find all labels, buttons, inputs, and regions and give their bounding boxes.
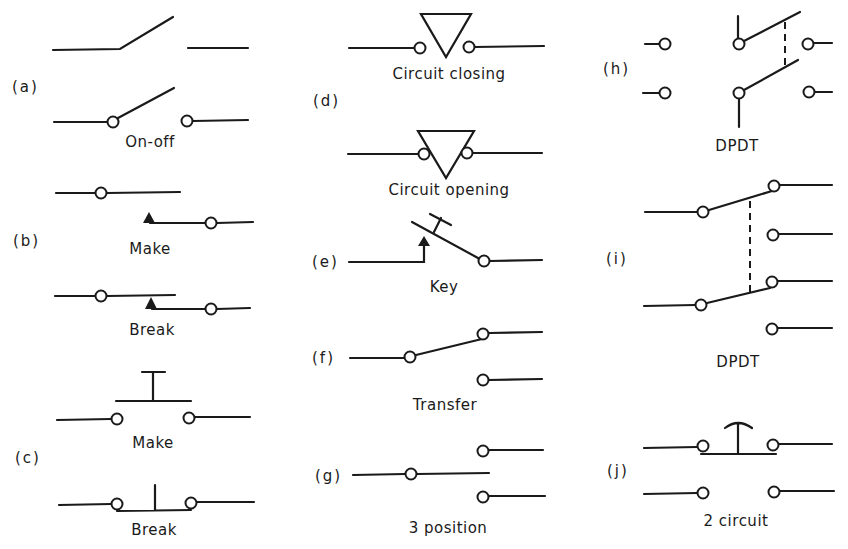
caption-circuit-closing: Circuit closing — [392, 65, 505, 83]
symbol-f-transfer — [350, 329, 542, 386]
symbol-c-break — [59, 485, 254, 511]
caption-circuit-opening: Circuit opening — [388, 181, 509, 199]
tag-i: (i) — [606, 250, 628, 268]
symbol-b-break — [55, 291, 250, 315]
tag-h: (h) — [603, 60, 630, 78]
caption-h-dpdt: DPDT — [715, 137, 758, 155]
symbol-g-3-position — [353, 446, 545, 503]
caption-on-off: On-off — [125, 133, 175, 151]
tag-a: (a) — [12, 78, 39, 96]
caption-key: Key — [430, 278, 459, 296]
symbol-a-plain — [53, 17, 248, 50]
tag-c: (c) — [15, 449, 41, 467]
symbol-h-dpdt — [643, 12, 832, 127]
tag-d: (d) — [313, 92, 340, 110]
caption-transfer: Transfer — [413, 396, 477, 414]
tag-j: (j) — [607, 462, 629, 480]
caption-i-dpdt: DPDT — [716, 353, 759, 371]
caption-c-break: Break — [131, 521, 177, 539]
symbol-c-make — [57, 372, 250, 425]
caption-b-break: Break — [129, 321, 175, 339]
symbol-a-on-off — [54, 88, 248, 128]
tag-e: (e) — [312, 253, 339, 271]
caption-2-circuit: 2 circuit — [704, 512, 769, 530]
tag-f: (f) — [312, 349, 335, 367]
caption-c-make: Make — [132, 434, 174, 452]
caption-b-make: Make — [129, 240, 171, 258]
symbol-j-2-circuit — [644, 423, 834, 499]
tag-g: (g) — [315, 467, 342, 485]
caption-3-position: 3 position — [409, 519, 488, 537]
symbol-d-opening — [348, 131, 542, 178]
symbol-b-make — [56, 188, 253, 229]
tag-b: (b) — [13, 232, 40, 250]
symbol-i-dpdt — [644, 181, 832, 335]
symbol-d-closing — [349, 14, 544, 57]
symbol-e-key — [349, 214, 542, 267]
